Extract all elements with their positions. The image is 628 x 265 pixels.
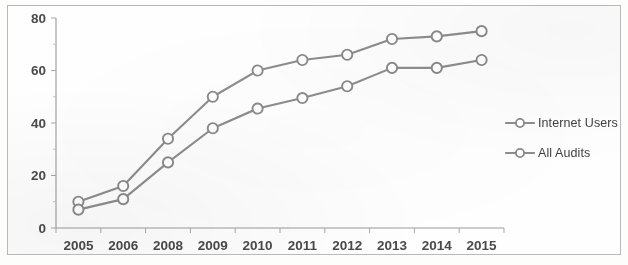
data-point-marker (342, 50, 352, 60)
series-internet-users (73, 26, 486, 207)
y-axis-labels: 020406080 (31, 11, 46, 236)
legend-item-internet-users: Internet Users (505, 108, 621, 138)
data-point-marker (477, 26, 487, 36)
chart-legend: Internet Users All Audits (505, 108, 621, 168)
data-point-marker (342, 81, 352, 91)
legend-marker-icon (505, 116, 535, 130)
data-point-marker (118, 181, 128, 191)
data-point-marker (253, 103, 263, 113)
x-tick-label: 2008 (153, 238, 184, 253)
data-point-marker (432, 63, 442, 73)
data-point-marker (208, 92, 218, 102)
x-tick-label: 2005 (63, 238, 94, 253)
y-tick-label: 0 (38, 221, 46, 236)
y-tick-label: 40 (31, 116, 46, 131)
x-axis-labels: 2005200620082009201020112012201320142015 (63, 238, 497, 253)
x-tick-label: 2010 (243, 238, 273, 253)
series-line (78, 60, 481, 210)
x-tick-label: 2006 (108, 238, 139, 253)
data-point-marker (387, 63, 397, 73)
x-tick-label: 2015 (467, 238, 498, 253)
x-axis-ticks (56, 228, 504, 233)
data-point-marker (208, 123, 218, 133)
data-point-marker (297, 93, 307, 103)
data-point-marker (297, 55, 307, 65)
series-all-audits (73, 55, 486, 215)
x-tick-label: 2009 (198, 238, 228, 253)
y-tick-label: 20 (31, 168, 46, 183)
data-point-marker (387, 34, 397, 44)
data-point-marker (73, 205, 83, 215)
legend-label: All Audits (538, 146, 590, 160)
x-tick-label: 2014 (422, 238, 453, 253)
data-point-marker (163, 157, 173, 167)
y-axis-ticks (51, 18, 56, 228)
series-line (78, 31, 481, 202)
data-point-marker (477, 55, 487, 65)
x-tick-label: 2012 (332, 238, 362, 253)
x-tick-label: 2013 (377, 238, 408, 253)
legend-label: Internet Users (538, 116, 618, 130)
legend-marker-icon (505, 146, 535, 160)
y-tick-label: 60 (31, 63, 46, 78)
y-tick-label: 80 (31, 11, 46, 26)
data-point-marker (253, 65, 263, 75)
data-point-marker (118, 194, 128, 204)
series-group (73, 26, 486, 215)
legend-item-all-audits: All Audits (505, 138, 621, 168)
data-point-marker (163, 134, 173, 144)
data-point-marker (432, 31, 442, 41)
x-tick-label: 2011 (288, 238, 318, 253)
